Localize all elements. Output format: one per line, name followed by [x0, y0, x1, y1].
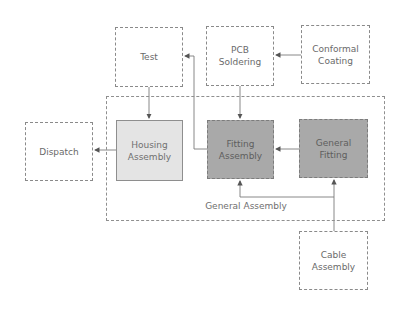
node-pcb-soldering: PCB Soldering	[206, 26, 274, 86]
node-housing-assembly: Housing Assembly	[116, 120, 183, 181]
node-test-label: Test	[140, 51, 158, 63]
node-dispatch: Dispatch	[25, 122, 93, 181]
node-dispatch-label: Dispatch	[39, 146, 79, 158]
node-fitting-assembly-line2: Assembly	[219, 150, 262, 162]
node-general-fitting: General Fitting	[299, 119, 368, 178]
node-general-fitting-line2: Fitting	[316, 149, 351, 161]
node-cable-assembly: Cable Assembly	[299, 231, 368, 290]
node-pcb-soldering-line2: Soldering	[219, 56, 262, 68]
node-housing-assembly-line2: Assembly	[128, 151, 171, 163]
general-assembly-label: General Assembly	[196, 201, 296, 211]
node-general-fitting-line1: General	[316, 137, 351, 149]
node-pcb-soldering-line1: PCB	[219, 44, 262, 56]
node-fitting-assembly: Fitting Assembly	[207, 120, 274, 179]
node-fitting-assembly-line1: Fitting	[219, 138, 262, 150]
node-conformal-coating-line1: Conformal	[312, 43, 359, 55]
node-conformal-coating-line2: Coating	[312, 55, 359, 67]
node-conformal-coating: Conformal Coating	[301, 25, 370, 84]
node-cable-assembly-line1: Cable	[312, 249, 355, 261]
node-cable-assembly-line2: Assembly	[312, 261, 355, 273]
node-test: Test	[115, 27, 183, 87]
node-housing-assembly-line1: Housing	[128, 139, 171, 151]
